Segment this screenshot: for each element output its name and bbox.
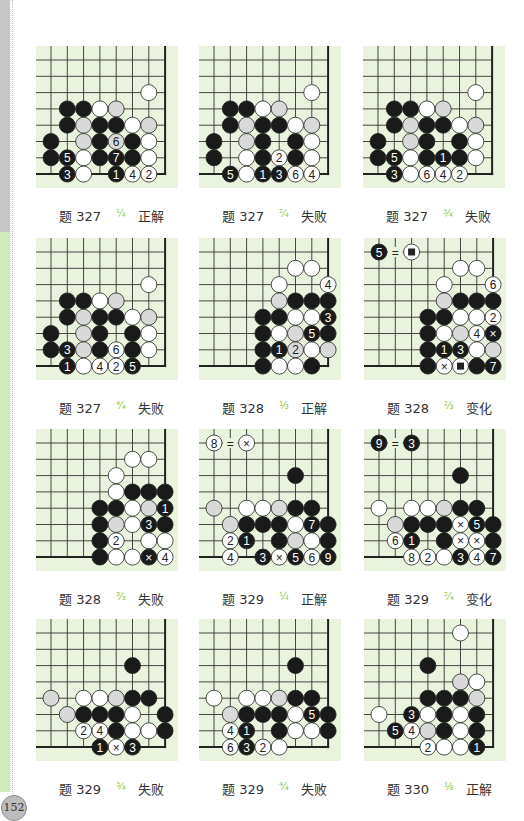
go-diagram: 6573142题 327¼正解 [36,46,186,236]
black-stone [125,658,141,674]
result-label: 失败 [301,206,327,225]
white-stone [304,260,320,276]
black-stone [288,150,304,166]
black-stone: 3 [453,342,469,358]
black-stone [419,134,435,150]
svg-text:9: 9 [325,551,332,565]
go-board: 72143×5698=× [199,429,349,579]
black-stone [485,293,501,309]
white-stone [157,533,173,549]
problem-number: 题 330 [387,779,429,798]
black-stone [288,658,304,674]
black-stone [370,134,386,150]
gray-stone [420,723,436,739]
svg-text:1: 1 [113,168,120,182]
black-stone [255,117,271,133]
black-stone: 3 [59,166,75,182]
white-stone: 2 [222,533,238,549]
black-stone [125,150,141,166]
gray-stone [239,117,255,133]
white-stone [436,549,452,565]
black-stone: 1 [435,150,451,166]
black-stone: 5 [371,244,387,260]
black-stone [370,150,386,166]
black-stone [108,500,124,516]
result-label: 正解 [301,589,327,608]
white-stone [76,150,92,166]
black-stone: 3 [271,166,287,182]
svg-text:2: 2 [425,741,432,755]
black-stone [453,690,469,706]
white-stone: × [239,435,255,451]
go-diagram: 35421题 330⅛正解 [364,619,514,809]
svg-text:6: 6 [292,168,299,182]
svg-text:2: 2 [260,741,267,755]
problem-number: 题 328 [387,398,429,417]
gray-stone [403,117,419,133]
black-stone [420,690,436,706]
white-stone: 6 [419,166,435,182]
svg-text:4: 4 [162,551,169,565]
black-stone [108,707,124,723]
svg-text:×: × [243,437,250,451]
svg-text:3: 3 [243,741,250,755]
svg-text:7: 7 [490,551,497,565]
black-stone [271,517,287,533]
gray-stone [141,309,157,325]
black-stone [141,690,157,706]
svg-text:1: 1 [440,151,447,165]
problem-number: 题 327 [59,398,101,417]
black-stone [125,326,141,342]
svg-text:4: 4 [473,327,480,341]
black-stone [420,358,436,374]
white-stone: 6 [485,277,501,293]
black-stone [157,707,173,723]
black-stone [420,342,436,358]
svg-text:3: 3 [260,551,267,565]
result-label: 失败 [138,398,164,417]
svg-text:9: 9 [376,437,383,451]
black-stone [288,293,304,309]
white-stone [239,166,255,182]
black-stone [59,117,75,133]
black-stone [92,533,108,549]
black-stone [76,101,92,117]
diagram-fraction: ¾ [443,208,453,219]
gray-stone [76,309,92,325]
black-stone [304,293,320,309]
white-stone [92,293,108,309]
white-stone [141,342,157,358]
svg-text:8: 8 [408,551,415,565]
go-board: 361425 [36,238,186,388]
black-stone [92,549,108,565]
black-stone: 7 [485,549,501,565]
svg-text:4: 4 [129,168,136,182]
white-stone [271,739,287,755]
svg-text:6: 6 [490,278,497,292]
problem-number: 题 329 [59,779,101,798]
svg-text:×: × [457,518,464,532]
go-board: 541632 [199,619,349,769]
result-label: 失败 [138,589,164,608]
white-stone: × [453,533,469,549]
white-stone: × [108,739,124,755]
diagram-fraction: ²⁄₄ [444,591,454,602]
black-stone: 1 [239,533,255,549]
white-stone [141,134,157,150]
black-stone: 7 [485,358,501,374]
white-stone: 6 [108,342,124,358]
white-stone: 6 [222,739,238,755]
page-number-badge: 152 [1,795,27,821]
black-stone: 5 [288,549,304,565]
white-stone [76,166,92,182]
page-edge-gray-tab [0,0,10,232]
svg-text:3: 3 [408,437,415,451]
svg-text:6: 6 [424,168,431,182]
white-stone [125,309,141,325]
black-stone: 1 [92,739,108,755]
black-stone [59,101,75,117]
white-stone [469,342,485,358]
svg-text:×: × [276,551,283,565]
black-stone [157,723,173,739]
black-stone [271,723,287,739]
